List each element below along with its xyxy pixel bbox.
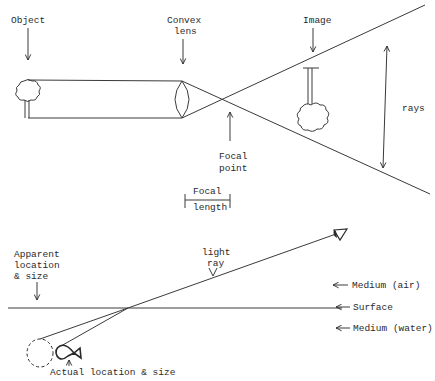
inverted-tree-image-icon — [297, 68, 329, 131]
focal-length-label-line1: Focal — [193, 186, 222, 197]
convex-lens-icon — [175, 81, 189, 118]
optics-diagram: Object Convex lens Focal point Focal — [0, 0, 435, 381]
parallel-ray-top — [28, 80, 182, 81]
focal-point-label-line1: Focal — [219, 151, 248, 162]
apparent-label-line2: location — [14, 260, 60, 271]
light-ray-label-line2: ray — [207, 258, 224, 269]
eye-icon — [333, 229, 347, 240]
apparent-label-line3: & size — [14, 271, 49, 282]
tree-object-icon — [16, 80, 41, 119]
medium-water-label: Medium (water) — [353, 323, 433, 334]
object-label: Object — [11, 15, 45, 26]
rays-label: rays — [402, 103, 425, 114]
apparent-label-line1: Apparent — [14, 249, 60, 260]
apparent-fish-dashed-circle — [27, 339, 53, 367]
refracted-ray-top — [182, 81, 430, 194]
image-label: Image — [303, 15, 332, 26]
fish-icon — [56, 345, 81, 359]
light-ray — [128, 234, 336, 308]
light-ray-pointer — [209, 268, 217, 276]
actual-ray — [61, 308, 128, 346]
focal-length-label-line2: length — [193, 202, 227, 213]
medium-air-label: Medium (air) — [352, 280, 420, 291]
apparent-ray — [40, 308, 128, 339]
focal-length-bar: Focal length — [185, 186, 230, 213]
surface-label: Surface — [353, 302, 393, 313]
rays-double-arrow — [383, 46, 387, 168]
focal-point-label-line2: point — [219, 163, 248, 174]
actual-label: Actual location & size — [50, 367, 176, 378]
convex-lens-label-line1: Convex — [167, 15, 202, 26]
lens-diagram: Object Convex lens Focal point Focal — [11, 5, 430, 213]
convex-lens-label-line2: lens — [174, 26, 197, 37]
light-ray-label-line1: light — [202, 247, 231, 258]
refraction-diagram: Apparent location & size light ray Actua… — [8, 229, 433, 378]
